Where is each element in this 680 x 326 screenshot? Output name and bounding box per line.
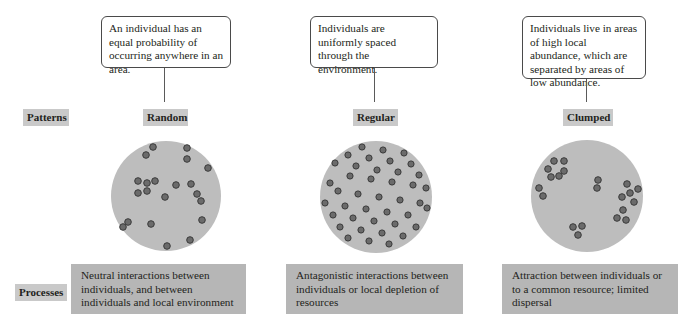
process-regular-text: Antagonistic interactions between indivi…	[296, 269, 448, 308]
clumped-distribution	[531, 140, 643, 252]
process-random-text: Neutral interactions between individuals…	[81, 269, 234, 308]
regular-distribution	[320, 141, 432, 253]
clumped-area	[531, 140, 643, 252]
process-random: Neutral interactions between individuals…	[71, 264, 246, 314]
random-distribution	[111, 141, 221, 251]
process-clumped-text: Attraction between individuals or to a c…	[512, 269, 662, 308]
process-clumped: Attraction between individuals or to a c…	[502, 264, 678, 314]
row-label-processes: Processes	[15, 284, 67, 301]
process-regular: Antagonistic interactions between indivi…	[286, 264, 463, 314]
